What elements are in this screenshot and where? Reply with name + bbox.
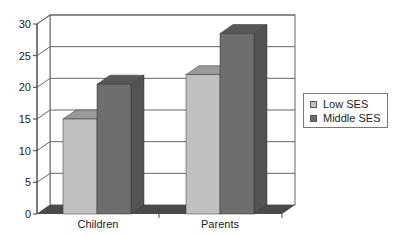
y-tick-label: 0	[25, 208, 31, 220]
x-label-parents: Parents	[201, 218, 239, 230]
legend-swatch-middle-ses	[310, 115, 317, 122]
x-axis-labels: ChildrenParents	[78, 214, 282, 230]
y-axis: 051015202530	[19, 18, 37, 220]
legend-item-middle-ses: Middle SES	[310, 111, 387, 125]
x-label-children: Children	[78, 218, 119, 230]
y-tick-label: 10	[19, 145, 31, 157]
bar-children-middle-ses	[97, 75, 144, 214]
y-tick-label: 15	[19, 113, 31, 125]
y-tick-label: 20	[19, 81, 31, 93]
legend: Low SES Middle SES	[303, 93, 388, 128]
legend-swatch-low-ses	[310, 101, 317, 108]
legend-label-low-ses: Low SES	[323, 98, 368, 110]
y-tick-label: 5	[25, 176, 31, 188]
legend-item-low-ses: Low SES	[310, 97, 387, 111]
bar-parents-middle-ses	[220, 25, 267, 215]
y-tick-label: 25	[19, 50, 31, 62]
legend-label-middle-ses: Middle SES	[323, 112, 380, 124]
y-tick-label: 30	[19, 18, 31, 30]
